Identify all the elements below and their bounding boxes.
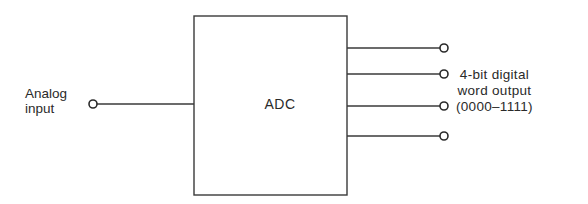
output-terminal-4-icon — [440, 132, 448, 140]
adc-block-diagram: Analog input ADC 4-bit digital word outp… — [0, 0, 588, 204]
output-terminal-3-icon — [440, 102, 448, 110]
output-terminal-1-icon — [440, 44, 448, 52]
analog-input-label: Analog input — [25, 86, 67, 116]
input-terminal-icon — [89, 100, 97, 108]
digital-output-label: 4-bit digital word output (0000–1111) — [456, 67, 533, 115]
adc-block-label: ADC — [252, 97, 308, 112]
output-terminal-2-icon — [440, 70, 448, 78]
